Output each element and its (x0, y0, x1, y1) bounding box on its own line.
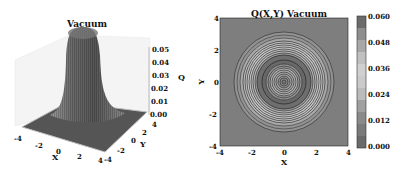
colorbar-tick: 0.036 (368, 64, 390, 73)
x-tick: 2 (314, 148, 319, 157)
contour-title: Q(X,Y) Vacuum (251, 9, 327, 19)
colorbar-tick: 0.012 (368, 116, 390, 125)
x-axis-label: X (281, 157, 287, 167)
y-tick: 0 (214, 78, 219, 87)
y-axis-label: Y (196, 79, 206, 85)
colorbar-tick: 0.024 (368, 90, 390, 99)
x-tick: -2 (248, 148, 256, 157)
colorbar (357, 16, 366, 148)
x-tick: -4 (216, 148, 224, 157)
colorbar-tick: 0.060 (368, 12, 390, 21)
y-tick: 4 (214, 14, 219, 23)
x-tick: 0 (282, 148, 287, 157)
x-tick: 4 (346, 148, 351, 157)
contour-graphic (0, 0, 400, 172)
y-tick: 2 (214, 46, 219, 55)
y-tick: -2 (209, 110, 217, 119)
colorbar-tick: 0.048 (368, 38, 390, 47)
colorbar-tick: 0.000 (368, 142, 390, 151)
